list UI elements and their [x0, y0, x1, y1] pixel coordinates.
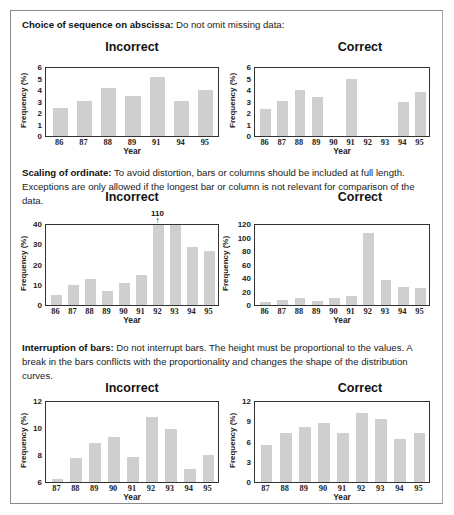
bar: 6.4: [394, 439, 406, 482]
bar: 27: [398, 287, 409, 305]
plot-area: 481161014108382725: [254, 224, 430, 306]
bar: 7.4: [414, 433, 426, 482]
bar: 5.6: [261, 445, 273, 482]
bar: 5: [346, 79, 357, 136]
y-tick-label: 12: [18, 398, 42, 406]
bar: 7.4: [337, 433, 349, 482]
bar: 3.9: [415, 92, 426, 136]
bar: 8.8: [318, 423, 330, 482]
bar: 40: [170, 225, 181, 305]
bar: 10: [165, 429, 177, 482]
bar: 4.1: [198, 90, 213, 136]
y-tick-label: 0: [227, 479, 251, 487]
x-axis-label: Year: [322, 146, 362, 156]
x-axis-label: Year: [322, 315, 362, 325]
x-tick-label: 94: [179, 484, 199, 493]
y-axis-label: Frequency (%): [19, 73, 28, 128]
bar: 25: [415, 288, 426, 305]
bar: 4.1: [295, 90, 306, 136]
x-tick-label: 88: [65, 484, 85, 493]
bar: 3: [398, 102, 409, 136]
x-tick-label: 87: [256, 484, 276, 493]
bar: 38: [381, 280, 392, 305]
x-tick-label: 95: [408, 484, 428, 493]
x-tick-label: 95: [199, 307, 219, 316]
bar: 7: [184, 469, 196, 482]
plot-area: 5.67.48.38.87.410.49.46.47.4: [254, 401, 430, 483]
bar: 5: [51, 295, 62, 305]
chart-title: Incorrect: [72, 381, 192, 395]
plot-area: 5101371115110402927: [45, 224, 219, 306]
bar: 8.3: [299, 427, 311, 482]
bar: 110: [153, 225, 164, 305]
x-axis-label: Year: [322, 492, 362, 502]
bar: 8: [203, 455, 215, 482]
section-text: Do not omit missing data:: [176, 19, 284, 30]
y-tick-label: 0: [227, 302, 251, 310]
bar: 7.8: [70, 458, 82, 482]
section-caption-abscissa: Choice of sequence on abscissa: Do not o…: [22, 18, 432, 32]
section-caption-interruption: Interruption of bars: Do not interrupt b…: [22, 341, 432, 383]
bar: 5.2: [150, 77, 165, 136]
y-axis-label: Frequency (%): [19, 236, 28, 291]
x-tick-label: 95: [409, 307, 429, 316]
chart-title: Correct: [300, 381, 420, 395]
bar: 10.4: [356, 413, 368, 482]
plot-area: 2.43.14.13.4533.9: [254, 67, 430, 137]
bar: 13: [85, 279, 96, 305]
section-heading: Choice of sequence on abscissa:: [22, 19, 173, 30]
y-axis-label: Frequency (%): [221, 236, 230, 291]
bar: 11: [119, 283, 130, 305]
x-tick-label: 89: [294, 484, 314, 493]
bar: 10.9: [146, 417, 158, 482]
bar: 14: [346, 296, 357, 305]
y-tick-label: 0: [227, 133, 251, 141]
bar: 3.1: [77, 101, 92, 136]
bar: 10: [329, 298, 340, 305]
bar: 7: [102, 291, 113, 305]
y-tick-label: 80: [227, 248, 251, 256]
x-tick-label: 95: [409, 138, 429, 147]
bar: 3.5: [125, 96, 140, 136]
x-tick-label: 95: [198, 484, 218, 493]
bar: 108: [363, 233, 374, 305]
y-tick-label: 40: [227, 275, 251, 283]
y-axis-label: Frequency (%): [228, 73, 237, 128]
y-tick-label: 100: [227, 235, 251, 243]
bar: 2.5: [53, 108, 68, 136]
x-tick-label: 89: [84, 484, 104, 493]
x-axis-label: Year: [112, 315, 152, 325]
x-axis-label: Year: [112, 492, 152, 502]
bar: 2.4: [260, 109, 271, 136]
y-tick-label: 6: [18, 479, 42, 487]
x-tick-label: 88: [275, 484, 295, 493]
bar: 6.2: [52, 479, 64, 482]
bar: 6: [312, 301, 323, 305]
bar: 3.1: [277, 101, 288, 136]
chart-title: Incorrect: [72, 190, 192, 204]
y-tick-label: 6: [18, 64, 42, 72]
x-tick-label: 95: [195, 138, 215, 147]
bar: 3.4: [312, 97, 323, 136]
bar: 27: [204, 251, 215, 305]
bar: 8: [277, 300, 288, 305]
y-tick-label: 12: [227, 398, 251, 406]
bar: 29: [187, 247, 198, 305]
y-tick-label: 60: [227, 262, 251, 270]
x-tick-label: 93: [370, 484, 390, 493]
y-tick-label: 40: [18, 221, 42, 229]
plot-area: 6.27.88.99.47.910.91078: [45, 401, 219, 483]
bar: 4: [260, 302, 271, 305]
x-tick-label: 94: [171, 138, 191, 147]
y-tick-label: 0: [18, 133, 42, 141]
y-tick-label: 20: [227, 289, 251, 297]
chart-title: Correct: [300, 40, 420, 54]
x-tick-label: 94: [389, 484, 409, 493]
y-tick-label: 120: [227, 221, 251, 229]
bar: 10: [68, 285, 79, 305]
y-tick-label: 6: [227, 64, 251, 72]
section-heading: Interruption of bars:: [22, 342, 114, 353]
bar: 11: [295, 298, 306, 305]
bar: 4.2: [101, 88, 116, 136]
y-tick-label: 0: [18, 302, 42, 310]
